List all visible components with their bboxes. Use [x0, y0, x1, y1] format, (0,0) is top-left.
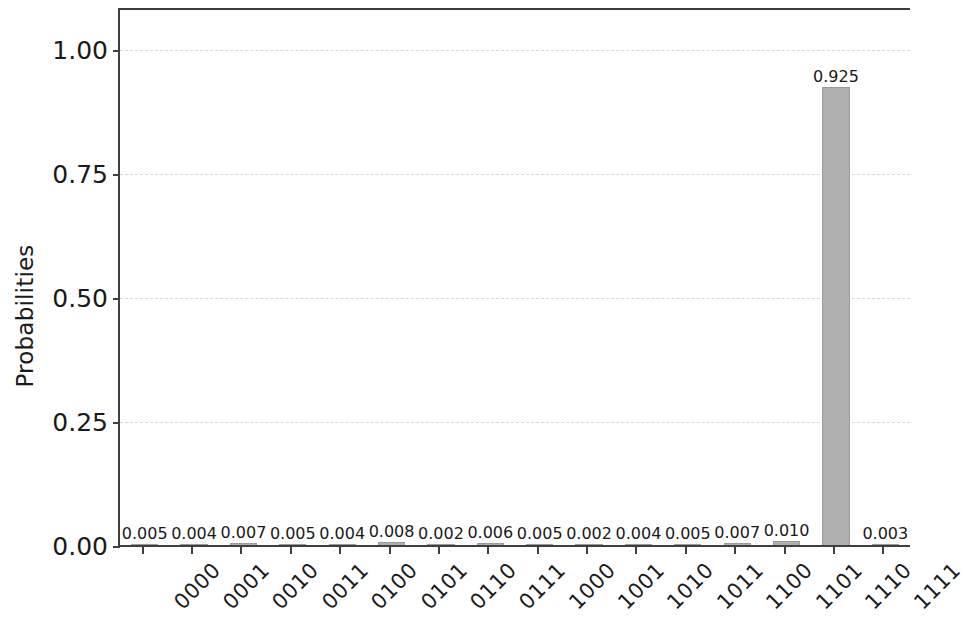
gridline	[120, 50, 910, 51]
x-tick-mark	[784, 547, 786, 554]
x-tick-label: 1111	[910, 558, 965, 614]
x-tick-mark	[339, 547, 341, 554]
x-tick-label: 1110	[860, 558, 916, 614]
bar-value-label: 0.004	[616, 526, 662, 542]
x-tick-label: 0110	[465, 558, 521, 614]
x-tick-mark	[487, 547, 489, 554]
x-axis-line	[118, 545, 910, 547]
x-tick-mark	[882, 547, 884, 554]
gridline	[120, 298, 910, 299]
x-tick-label: 0111	[515, 558, 571, 614]
x-tick-label: 1101	[811, 558, 867, 614]
bar-value-label: 0.005	[665, 526, 711, 542]
x-tick-label: 1011	[712, 558, 768, 614]
x-tick-mark	[685, 547, 687, 554]
bar-value-label: 0.003	[862, 526, 908, 542]
x-tick-label: 1000	[564, 558, 620, 614]
bar-value-label: 0.002	[418, 526, 464, 542]
bar-value-label: 0.005	[517, 526, 563, 542]
x-tick-label: 0100	[366, 558, 422, 614]
y-tick-label: 0.75	[52, 159, 108, 188]
y-tick-label: 0.50	[52, 283, 108, 312]
bar-value-label: 0.010	[764, 523, 810, 539]
x-tick-mark	[142, 547, 144, 554]
x-tick-mark	[734, 547, 736, 554]
gridline	[120, 422, 910, 423]
x-tick-label: 0011	[317, 558, 373, 614]
bar-value-label: 0.004	[319, 526, 365, 542]
bar-value-label: 0.006	[467, 525, 513, 541]
plot-area: 0.000.250.500.751.00 0.0050.0040.0070.00…	[118, 8, 910, 546]
bar-value-label: 0.005	[122, 526, 168, 542]
x-tick-mark	[290, 547, 292, 554]
bar-value-label: 0.005	[270, 526, 316, 542]
gridline	[120, 174, 910, 175]
x-tick-label: 1100	[761, 558, 817, 614]
bar-value-label: 0.007	[714, 525, 760, 541]
x-tick-mark	[438, 547, 440, 554]
y-tick-mark	[113, 422, 120, 424]
y-axis-label: Probabilities	[2, 0, 48, 632]
bar: 0.925	[822, 87, 849, 546]
x-tick-label: 0000	[169, 558, 225, 614]
x-tick-mark	[586, 547, 588, 554]
y-axis-label-wrapper: Probabilities	[2, 0, 48, 560]
y-tick-label: 0.25	[52, 407, 108, 436]
x-tick-mark	[389, 547, 391, 554]
x-tick-label: 1001	[613, 558, 669, 614]
x-tick-mark	[537, 547, 539, 554]
y-tick-label: 0.00	[52, 532, 108, 561]
x-tick-label: 0001	[218, 558, 274, 614]
x-tick-label: 0101	[416, 558, 472, 614]
x-tick-label: 0010	[268, 558, 324, 614]
bar-value-label: 0.007	[221, 525, 267, 541]
y-tick-mark	[113, 174, 120, 176]
bar-value-label: 0.925	[813, 69, 859, 85]
bar-value-label: 0.004	[171, 526, 217, 542]
x-tick-mark	[240, 547, 242, 554]
bar-value-label: 0.002	[566, 526, 612, 542]
y-tick-mark	[113, 298, 120, 300]
x-tick-mark	[191, 547, 193, 554]
x-tick-mark	[833, 547, 835, 554]
y-tick-label: 1.00	[52, 35, 108, 64]
bar-value-label: 0.008	[369, 524, 415, 540]
y-tick-mark	[113, 50, 120, 52]
x-tick-mark	[635, 547, 637, 554]
x-tick-label: 1010	[663, 558, 719, 614]
